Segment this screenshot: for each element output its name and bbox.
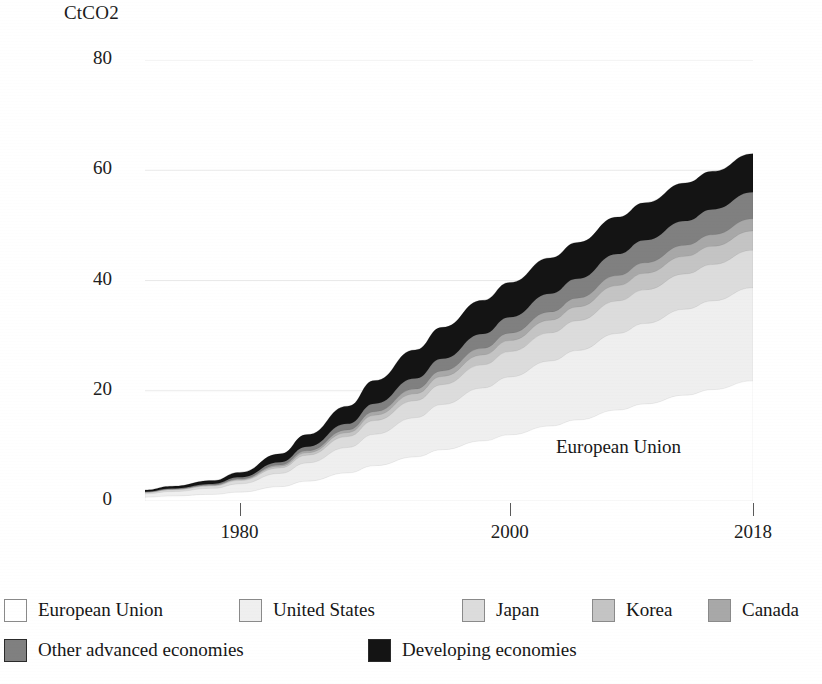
chart-legend: European UnionUnited StatesJapanKoreaCan…: [0, 595, 822, 684]
legend-swatch: [708, 599, 731, 622]
plot-area: [145, 60, 753, 501]
chart-figure: CtCO2 806040200 198020002018 European Un…: [0, 0, 822, 684]
x-tick-mark: [240, 503, 241, 516]
y-tick-label: 40: [66, 268, 112, 290]
y-axis-unit-label: CtCO2: [64, 2, 119, 24]
legend-label: Developing economies: [402, 639, 577, 661]
y-tick-label: 60: [66, 157, 112, 179]
x-tick-label: 1980: [221, 521, 259, 543]
legend-label: European Union: [38, 599, 163, 621]
y-tick-label: 0: [66, 488, 112, 510]
legend-item-other-advanced-economies[interactable]: Other advanced economies: [4, 635, 244, 665]
legend-label: Korea: [626, 599, 672, 621]
legend-row: European UnionUnited StatesJapanKoreaCan…: [0, 595, 822, 631]
legend-label: Japan: [496, 599, 539, 621]
y-tick-label: 80: [66, 47, 112, 69]
legend-item-developing-economies[interactable]: Developing economies: [368, 635, 577, 665]
stacked-area-chart: [145, 60, 753, 501]
x-tick-mark: [510, 503, 511, 516]
x-tick-mark: [753, 503, 754, 516]
legend-swatch: [4, 639, 27, 662]
x-tick-label: 2000: [491, 521, 529, 543]
legend-swatch: [368, 639, 391, 662]
legend-row: Other advanced economiesDeveloping econo…: [0, 635, 822, 671]
legend-item-japan[interactable]: Japan: [462, 595, 539, 625]
legend-label: United States: [273, 599, 375, 621]
legend-label: Canada: [742, 599, 799, 621]
legend-item-european-union[interactable]: European Union: [4, 595, 163, 625]
legend-item-united-states[interactable]: United States: [239, 595, 375, 625]
y-tick-label: 20: [66, 378, 112, 400]
legend-swatch: [4, 599, 27, 622]
legend-item-canada[interactable]: Canada: [708, 595, 799, 625]
legend-label: Other advanced economies: [38, 639, 244, 661]
legend-item-korea[interactable]: Korea: [592, 595, 672, 625]
legend-swatch: [462, 599, 485, 622]
legend-swatch: [239, 599, 262, 622]
legend-swatch: [592, 599, 615, 622]
x-tick-label: 2018: [734, 521, 772, 543]
annotation-european-union: European Union: [556, 436, 681, 458]
